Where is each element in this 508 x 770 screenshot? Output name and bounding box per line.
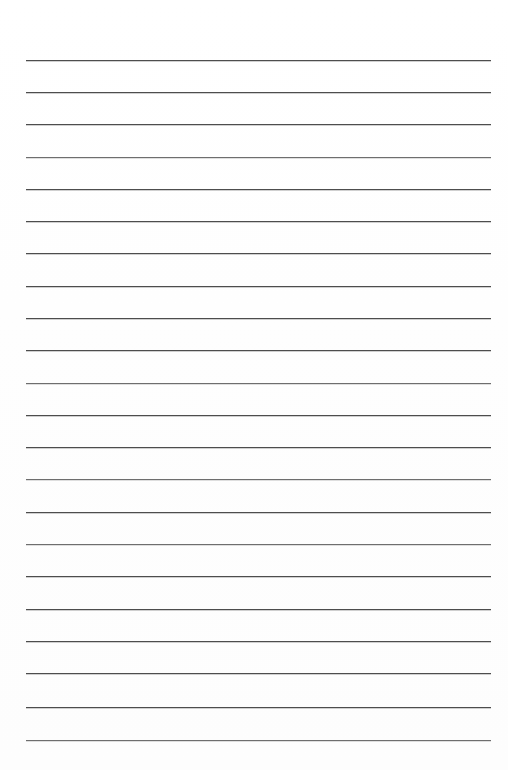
writing-area[interactable]: [0, 0, 508, 770]
ruled-paper-page: Blank ruled notebook paper page with hor…: [0, 0, 508, 770]
